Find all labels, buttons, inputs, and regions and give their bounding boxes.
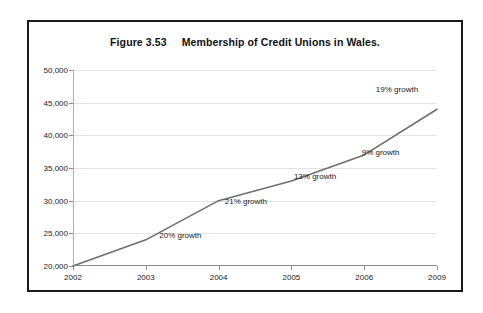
growth-annotation: 9% growth (362, 148, 400, 157)
figure-frame: Figure 3.53 Membership of Credit Unions … (27, 20, 463, 292)
x-axis-tick-label: 2004 (210, 273, 228, 282)
x-axis-tick-mark (437, 266, 438, 270)
growth-annotation: 21% growth (225, 197, 267, 206)
x-axis-tick-label: 2002 (64, 273, 82, 282)
y-axis-tick-label: 40,000 (44, 131, 68, 140)
growth-annotation: 20% growth (159, 230, 201, 239)
y-axis-tick-label: 25,000 (44, 229, 68, 238)
x-axis-tick-mark (219, 266, 220, 270)
growth-annotation: 19% growth (376, 84, 418, 93)
y-axis-tick-label: 45,000 (44, 98, 68, 107)
y-axis-tick-label: 20,000 (44, 262, 68, 271)
x-axis-tick-label: 2009 (428, 273, 446, 282)
x-axis-tick-mark (291, 266, 292, 270)
x-axis-tick-label: 2006 (355, 273, 373, 282)
x-axis-tick-mark (364, 266, 365, 270)
x-axis-tick-mark (146, 266, 147, 270)
x-axis-tick-label: 2005 (282, 273, 300, 282)
growth-annotation: 13% growth (294, 171, 336, 180)
x-axis-tick-label: 2003 (137, 273, 155, 282)
y-axis-tick-label: 35,000 (44, 164, 68, 173)
data-series-line (73, 70, 437, 266)
y-axis-tick-label: 30,000 (44, 196, 68, 205)
plot-area: 20,00025,00030,00035,00040,00045,00050,0… (73, 70, 437, 266)
y-axis-tick-label: 50,000 (44, 66, 68, 75)
chart-title: Figure 3.53 Membership of Credit Unions … (29, 36, 461, 48)
